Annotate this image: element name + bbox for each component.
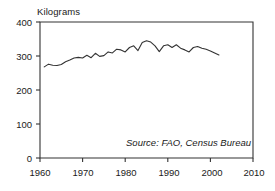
y-tick-label-400: 400 bbox=[6, 18, 32, 28]
x-tick-label-1990: 1990 bbox=[149, 168, 189, 178]
chart-figure: Kilograms 400 300 200 100 0 1960 1970 19… bbox=[0, 0, 275, 191]
x-tick-label-1980: 1980 bbox=[106, 168, 146, 178]
y-axis-ticks bbox=[36, 22, 40, 158]
source-annotation: Source: FAO, Census Bureau bbox=[126, 137, 251, 148]
x-tick-label-1960: 1960 bbox=[20, 168, 60, 178]
y-tick-label-200: 200 bbox=[6, 86, 32, 96]
x-tick-label-1970: 1970 bbox=[63, 168, 103, 178]
data-series-line bbox=[44, 41, 219, 67]
plot-area bbox=[0, 0, 275, 191]
y-axis-unit-label: Kilograms bbox=[37, 6, 80, 18]
y-tick-label-0: 0 bbox=[6, 154, 32, 164]
x-axis-ticks bbox=[40, 158, 253, 162]
y-tick-label-300: 300 bbox=[6, 52, 32, 62]
x-tick-label-2010: 2010 bbox=[234, 168, 274, 178]
y-tick-label-100: 100 bbox=[6, 120, 32, 130]
x-tick-label-2000: 2000 bbox=[192, 168, 232, 178]
